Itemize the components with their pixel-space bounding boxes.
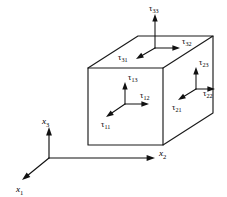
axis-x1-label: x1 — [15, 184, 23, 196]
axis-x2: x2 — [49, 148, 166, 161]
axis-x2-arrowhead — [147, 155, 155, 161]
axis-x3-label: x3 — [41, 116, 50, 128]
tau-33-label: τ33 — [149, 4, 158, 14]
axis-x2-label: x2 — [158, 148, 166, 160]
axis-x3: x3 — [41, 116, 52, 158]
axis-x1: x1 — [15, 158, 49, 196]
stress-tensor-figure: τ33 τ32 τ31 τ13 — [0, 0, 227, 197]
stress-diagram-canvas: τ33 τ32 τ31 τ13 — [0, 0, 227, 197]
cube-front-face — [88, 68, 163, 145]
axis-x3-arrowhead — [46, 127, 52, 135]
tau-33-arrowhead — [152, 14, 157, 22]
